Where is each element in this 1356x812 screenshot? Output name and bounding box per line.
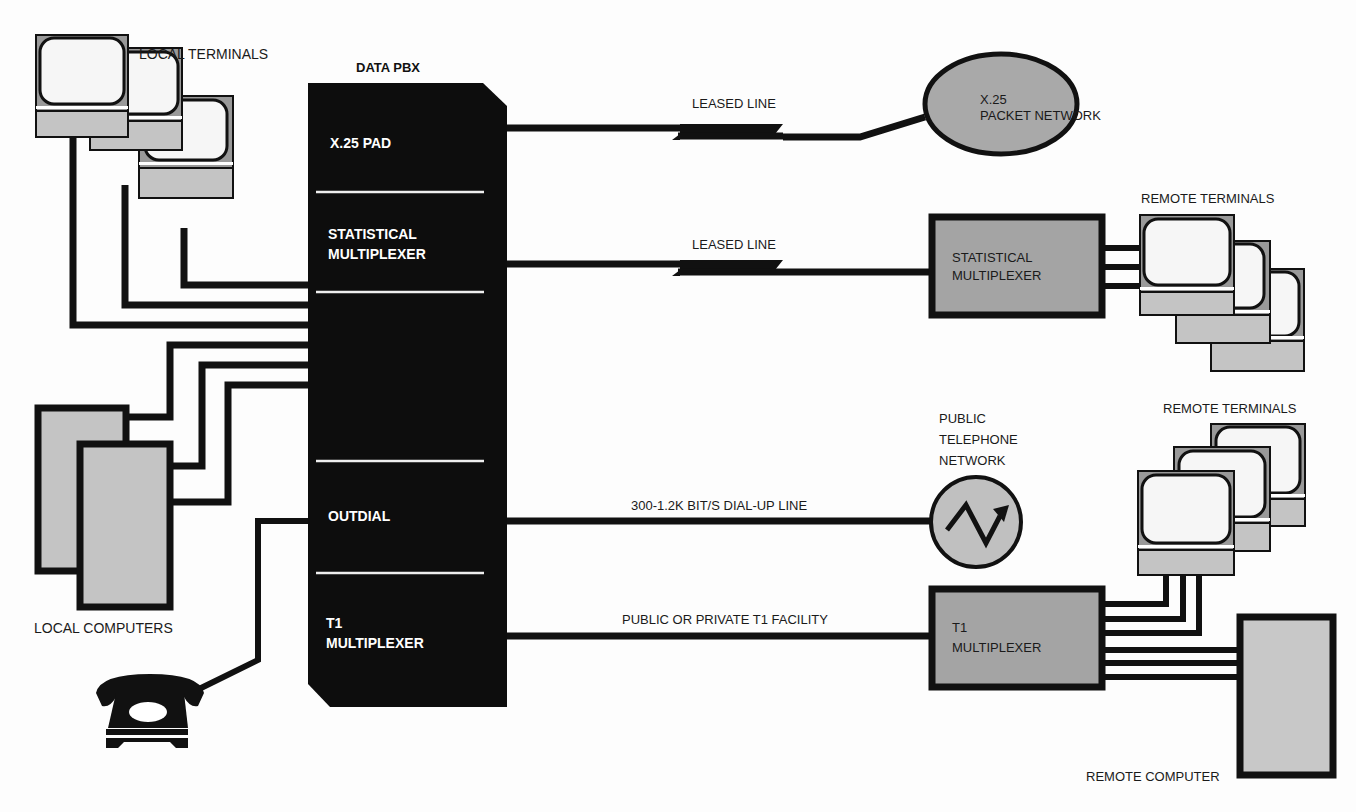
local-computers-group: LOCAL COMPUTERS	[34, 345, 308, 636]
local-terminal-1-icon	[36, 35, 128, 137]
local-computer-2-icon	[80, 444, 170, 607]
network-diagram: LOCAL TERMINALS LOCAL COMPUTERS DATA PBX	[0, 0, 1356, 812]
pbx-chassis	[308, 83, 507, 707]
remote-computer: REMOTE COMPUTER	[1086, 617, 1333, 784]
svg-text:STATISTICAL: STATISTICAL	[952, 250, 1032, 265]
remote-computer-label: REMOTE COMPUTER	[1086, 769, 1220, 784]
remote-stat-mux-box	[932, 217, 1102, 315]
wire-telephone	[197, 521, 308, 690]
svg-text:T1: T1	[952, 620, 967, 635]
remote-terminal-1-icon	[1140, 215, 1234, 315]
link-label: 300-1.2K BIT/S DIAL-UP LINE	[631, 498, 807, 513]
svg-text:PACKET NETWORK: PACKET NETWORK	[980, 108, 1101, 123]
pbx-section-x25-pad: X.25 PAD	[330, 135, 391, 151]
svg-text:X.25: X.25	[980, 92, 1007, 107]
remote-t1-mux-box	[932, 589, 1102, 687]
svg-text:MULTIPLEXER: MULTIPLEXER	[952, 640, 1041, 655]
svg-text:OUTDIAL: OUTDIAL	[328, 508, 391, 524]
remote-terminals-1-group: REMOTE TERMINALS	[1140, 191, 1304, 371]
wire-local-computer-3	[170, 385, 308, 502]
remote-terminals-2-label: REMOTE TERMINALS	[1163, 401, 1297, 416]
local-terminals-group: LOCAL TERMINALS	[36, 35, 308, 325]
pbx-section-outdial: OUTDIAL	[328, 508, 391, 524]
data-pbx: DATA PBX X.25 PAD STATISTICAL MULTIPLEXE…	[308, 60, 507, 707]
telephone-icon	[96, 674, 204, 748]
wire-local-computer-2	[170, 365, 308, 466]
svg-text:MULTIPLEXER: MULTIPLEXER	[952, 268, 1041, 283]
wire-local-computer-1	[126, 345, 308, 417]
svg-text:MULTIPLEXER: MULTIPLEXER	[326, 635, 424, 651]
link-label: LEASED LINE	[692, 96, 776, 111]
remote-computer-icon	[1240, 617, 1333, 775]
svg-text:NETWORK: NETWORK	[939, 453, 1006, 468]
link-dialup-line: 300-1.2K BIT/S DIAL-UP LINE	[507, 498, 930, 521]
local-computers-label: LOCAL COMPUTERS	[34, 620, 173, 636]
svg-text:STATISTICAL: STATISTICAL	[328, 226, 417, 242]
link-t1-facility: PUBLIC OR PRIVATE T1 FACILITY	[507, 612, 932, 636]
remote-terminal-4-icon	[1138, 471, 1234, 575]
link-label: PUBLIC OR PRIVATE T1 FACILITY	[622, 612, 828, 627]
wire-local-terminal-3	[184, 228, 308, 285]
remote-terminals-1-label: REMOTE TERMINALS	[1141, 191, 1275, 206]
x25-packet-network: X.25 PACKET NETWORK	[925, 54, 1101, 154]
svg-text:T1: T1	[326, 615, 343, 631]
public-telephone-network: PUBLIC TELEPHONE NETWORK	[931, 411, 1021, 567]
svg-text:TELEPHONE: TELEPHONE	[939, 432, 1018, 447]
link-label: LEASED LINE	[692, 237, 776, 252]
link-leased-line-stat-mux: LEASED LINE	[507, 237, 932, 276]
remote-statistical-multiplexer: STATISTICAL MULTIPLEXER	[932, 217, 1143, 315]
local-terminals-label: LOCAL TERMINALS	[139, 46, 268, 62]
svg-text:PUBLIC: PUBLIC	[939, 411, 986, 426]
svg-text:X.25 PAD: X.25 PAD	[330, 135, 391, 151]
link-leased-line-x25: LEASED LINE	[507, 96, 925, 140]
remote-t1-multiplexer: T1 MULTIPLEXER	[932, 574, 1240, 687]
data-pbx-title: DATA PBX	[356, 60, 420, 75]
remote-terminals-2-group: REMOTE TERMINALS	[1138, 401, 1305, 575]
svg-text:MULTIPLEXER: MULTIPLEXER	[328, 246, 426, 262]
